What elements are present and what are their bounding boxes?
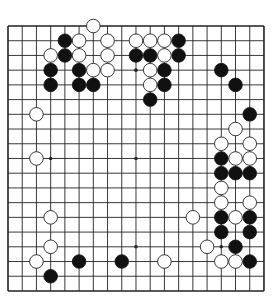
white-stone[interactable] [30,152,44,166]
black-stone[interactable] [87,78,101,92]
white-stone[interactable] [229,152,243,166]
black-stone[interactable] [215,211,229,225]
white-stone[interactable] [215,181,229,195]
black-stone[interactable] [143,49,157,63]
white-stone[interactable] [158,255,172,269]
star-point-icon [134,157,138,161]
go-board[interactable] [0,0,275,298]
black-stone[interactable] [215,225,229,239]
star-point-icon [220,245,224,249]
white-stone[interactable] [30,108,44,122]
black-stone[interactable] [243,108,257,122]
black-stone[interactable] [243,211,257,225]
black-stone[interactable] [215,152,229,166]
white-stone[interactable] [87,63,101,77]
white-stone[interactable] [215,137,229,151]
black-stone[interactable] [44,269,58,283]
star-point-icon [134,245,138,249]
black-stone[interactable] [215,63,229,77]
white-stone[interactable] [101,63,115,77]
white-stone[interactable] [200,240,214,254]
black-stone[interactable] [129,49,143,63]
stones-layer[interactable] [30,19,257,283]
white-stone[interactable] [229,122,243,136]
go-board-canvas[interactable] [0,0,275,298]
black-stone[interactable] [115,255,129,269]
white-stone[interactable] [101,49,115,63]
black-stone[interactable] [44,78,58,92]
white-stone[interactable] [143,78,157,92]
white-stone[interactable] [158,49,172,63]
white-stone[interactable] [72,49,86,63]
white-stone[interactable] [243,152,257,166]
white-stone[interactable] [158,34,172,48]
white-stone[interactable] [30,255,44,269]
white-stone[interactable] [87,19,101,33]
black-stone[interactable] [72,78,86,92]
black-stone[interactable] [143,93,157,107]
black-stone[interactable] [158,63,172,77]
black-stone[interactable] [72,255,86,269]
black-stone[interactable] [215,166,229,180]
black-stone[interactable] [72,63,86,77]
star-point-icon [134,68,138,72]
white-stone[interactable] [44,49,58,63]
white-stone[interactable] [215,255,229,269]
white-stone[interactable] [44,211,58,225]
black-stone[interactable] [58,49,72,63]
white-stone[interactable] [243,196,257,210]
white-stone[interactable] [243,137,257,151]
black-stone[interactable] [229,78,243,92]
black-stone[interactable] [243,225,257,239]
black-stone[interactable] [172,34,186,48]
white-stone[interactable] [186,211,200,225]
black-stone[interactable] [44,63,58,77]
white-stone[interactable] [72,34,86,48]
white-stone[interactable] [129,34,143,48]
black-stone[interactable] [243,255,257,269]
black-stone[interactable] [58,34,72,48]
black-stone[interactable] [229,166,243,180]
black-stone[interactable] [158,78,172,92]
white-stone[interactable] [143,63,157,77]
white-stone[interactable] [229,211,243,225]
black-stone[interactable] [172,49,186,63]
black-stone[interactable] [229,240,243,254]
white-stone[interactable] [143,34,157,48]
white-stone[interactable] [101,34,115,48]
white-stone[interactable] [44,240,58,254]
white-stone[interactable] [215,196,229,210]
star-point-icon [49,157,53,161]
white-stone[interactable] [229,255,243,269]
black-stone[interactable] [243,166,257,180]
